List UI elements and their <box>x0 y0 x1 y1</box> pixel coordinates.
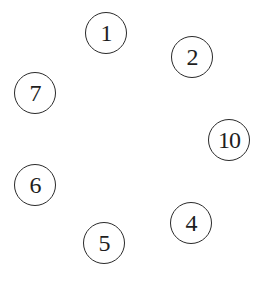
node-label: 2 <box>187 45 198 69</box>
node-2: 2 <box>171 36 213 78</box>
node-label: 5 <box>99 231 110 255</box>
node-7: 7 <box>14 72 56 114</box>
node-label: 10 <box>218 128 240 152</box>
diagram-canvas: 12710645 <box>0 0 272 285</box>
node-5: 5 <box>83 222 125 264</box>
node-10: 10 <box>208 119 250 161</box>
node-1: 1 <box>85 12 127 54</box>
node-label: 7 <box>30 81 41 105</box>
node-4: 4 <box>170 202 212 244</box>
node-label: 6 <box>30 173 41 197</box>
node-6: 6 <box>14 164 56 206</box>
node-label: 4 <box>186 211 197 235</box>
node-label: 1 <box>101 21 112 45</box>
